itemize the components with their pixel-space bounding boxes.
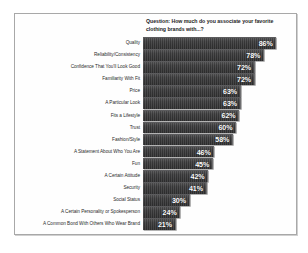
bar-value-label: 62% [222,112,239,119]
bar-track: 72% [143,73,298,85]
bar-value-label: 63% [223,100,240,107]
bar: 46% [143,146,214,158]
bar-track: 21% [143,218,298,230]
bar-row: Fits a Lifestyle62% [15,110,298,122]
bar: 72% [143,73,255,85]
bar-row: Familiarity With Fit72% [15,73,298,85]
bar-row: Social Status30% [15,194,298,206]
bar: 30% [143,194,190,206]
bar-track: 78% [143,49,298,61]
category-label: A Certain Personality or Spokesperson [15,206,143,218]
bar-track: 58% [143,134,298,146]
bar-value-label: 30% [172,197,189,204]
category-label: A Statement About Who You Are [15,146,143,158]
bar-value-label: 63% [223,88,240,95]
bar-row: Fashion/Style58% [15,134,298,146]
bar-track: 42% [143,170,298,182]
bar-track: 24% [143,206,298,218]
bar-value-label: 58% [215,136,232,143]
bar: 62% [143,110,239,122]
bar-track: 45% [143,158,298,170]
category-label: Fun [15,158,143,170]
bar: 63% [143,97,241,109]
bar-track: 72% [143,61,298,73]
bar: 42% [143,170,208,182]
bar-track: 63% [143,97,298,109]
bar-chart-plot-area: Quality86%Reliability/Consistency78%Conf… [15,37,298,233]
bar-row: A Statement About Who You Are46% [15,146,298,158]
bar: 58% [143,134,233,146]
bar-track: 62% [143,110,298,122]
bar-row: Trust60% [15,122,298,134]
bar-value-label: 24% [163,209,180,216]
bar-value-label: 45% [195,161,212,168]
category-label: A Certain Attitude [15,170,143,182]
bar-value-label: 46% [197,149,214,156]
bar: 60% [143,122,236,134]
category-label: Familiarity With Fit [15,73,143,85]
bar-value-label: 60% [218,124,235,131]
category-label: A Particular Look [15,97,143,109]
bar-value-label: 41% [189,185,206,192]
bar-row: Fun45% [15,158,298,170]
bar-track: 86% [143,37,298,49]
bar-row: A Particular Look63% [15,97,298,109]
category-label: Fits a Lifestyle [15,110,143,122]
category-label: Confidence That You'll Look Good [15,61,143,73]
bar-row: A Certain Personality or Spokesperson24% [15,206,298,218]
bar: 72% [143,61,255,73]
category-label: Trust [15,122,143,134]
bar: 21% [143,218,176,230]
bar-row: Confidence That You'll Look Good72% [15,61,298,73]
category-label: Quality [15,37,143,49]
bar-row: Quality86% [15,37,298,49]
bar-value-label: 78% [246,52,263,59]
category-label: Fashion/Style [15,134,143,146]
bar-track: 60% [143,122,298,134]
bar-value-label: 86% [259,40,276,47]
bar: 78% [143,49,264,61]
bar: 86% [143,37,276,49]
bar-track: 63% [143,85,298,97]
category-label: A Common Bond With Others Who Wear Brand [15,218,143,230]
bar-track: 41% [143,182,298,194]
bar-value-label: 21% [158,221,175,228]
bar-track: 46% [143,146,298,158]
category-label: Reliability/Consistency [15,49,143,61]
bar: 45% [143,158,213,170]
bar-row: Security41% [15,182,298,194]
category-label: Price [15,85,143,97]
bar: 41% [143,182,207,194]
bar: 24% [143,206,180,218]
bar-row: A Certain Attitude42% [15,170,298,182]
bar: 63% [143,85,241,97]
category-label: Social Status [15,194,143,206]
bar-track: 30% [143,194,298,206]
bar-value-label: 72% [237,76,254,83]
category-label: Security [15,182,143,194]
chart-title: Question: How much do you associate your… [146,17,294,33]
bar-row: Reliability/Consistency78% [15,49,298,61]
bar-value-label: 72% [237,64,254,71]
bar-row: Price63% [15,85,298,97]
bar-value-label: 42% [191,173,208,180]
chart-frame: Question: How much do you associate your… [14,13,297,235]
bar-row: A Common Bond With Others Who Wear Brand… [15,218,298,230]
